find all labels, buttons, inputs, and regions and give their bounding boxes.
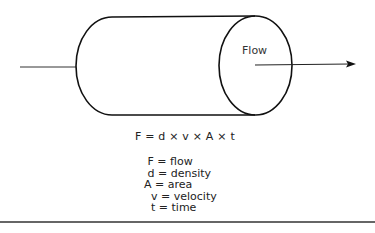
variable-legend: F = flow d = density A = area v = veloci… [144, 156, 217, 214]
flow-arrow-line [255, 64, 350, 65]
cylinder-body [76, 16, 255, 115]
flow-label: Flow [242, 44, 267, 57]
cylinder-end-ellipse [219, 16, 292, 115]
legend-item-time: t = time [144, 202, 217, 214]
legend-item-flow: F = flow [144, 156, 217, 168]
bottom-divider [0, 221, 375, 223]
flow-formula: F = d × v × A × t [135, 130, 235, 143]
legend-item-area: A = area [144, 179, 217, 191]
